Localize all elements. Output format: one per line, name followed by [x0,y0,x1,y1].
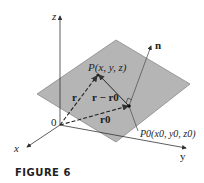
point-P-label: P(x, y, z) [88,62,126,73]
y-axis-label: y [180,151,186,162]
vector-r-minus-r0-label: r − r0 [92,92,119,103]
z-axis-label: z [52,11,56,22]
point-P0 [127,104,131,108]
point-P [96,73,99,76]
point-P0-label: P0(x0, y0, z0) [140,129,196,139]
vector-r-label: r [72,92,77,103]
normal-label: n [155,40,161,51]
x-axis-label: x [14,143,19,154]
figure-caption: FIGURE 6 [15,167,71,178]
x-axis [27,125,60,147]
origin-label: 0 [51,117,57,128]
vector-r0-label: r0 [100,114,110,125]
